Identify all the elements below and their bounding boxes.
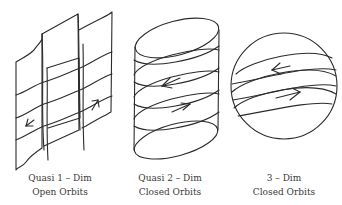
cylinder-drawing <box>130 10 223 166</box>
caption-3-dim: 3 – Dim Closed Orbits <box>242 171 326 199</box>
sphere-drawing <box>231 33 337 139</box>
caption-quasi-1-dim: Quasi 1 – Dim Open Orbits <box>18 171 102 199</box>
caption-subtitle: Open Orbits <box>18 185 102 199</box>
caption-subtitle: Closed Orbits <box>128 185 212 199</box>
caption-quasi-2-dim: Quasi 2 – Dim Closed Orbits <box>128 171 212 199</box>
caption-title: Quasi 2 – Dim <box>128 171 212 185</box>
caption-title: Quasi 1 – Dim <box>18 171 102 185</box>
sheet-drawing <box>16 12 112 170</box>
caption-subtitle: Closed Orbits <box>242 185 326 199</box>
caption-title: 3 – Dim <box>242 171 326 185</box>
